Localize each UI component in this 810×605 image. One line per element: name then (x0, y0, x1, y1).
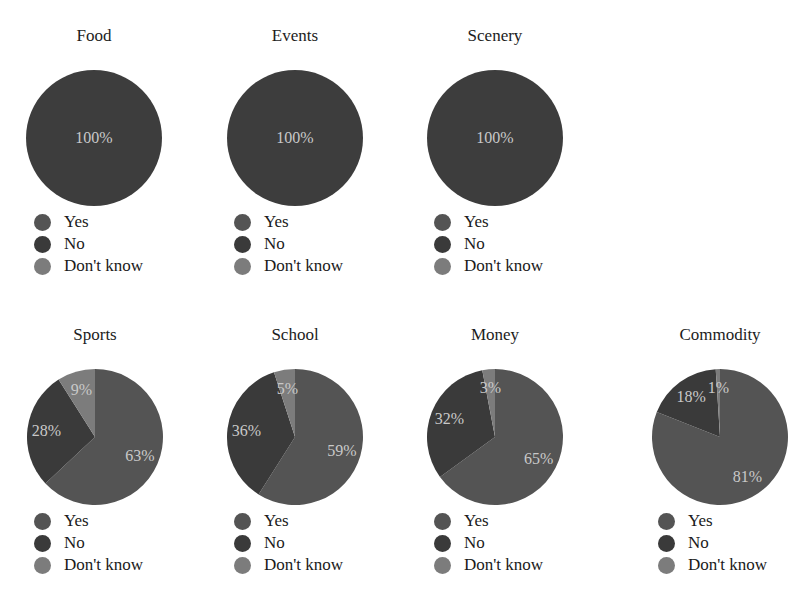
legend-label: Don't know (264, 256, 343, 276)
legend-label: Yes (264, 511, 289, 531)
legend-label: No (688, 533, 709, 553)
pie-chart: 65%32%3% (400, 299, 600, 529)
legend-swatch-icon (234, 236, 251, 253)
legend-label: Yes (64, 511, 89, 531)
slice-value-label: 65% (524, 450, 553, 467)
legend-item-dont-know: Don't know (658, 554, 767, 576)
legend-label: Don't know (464, 555, 543, 575)
legend-swatch-icon (434, 214, 451, 231)
legend-item-yes: Yes (234, 211, 343, 233)
legend-label: No (464, 234, 485, 254)
legend-swatch-icon (658, 513, 675, 530)
slice-value-label: 59% (327, 442, 356, 459)
legend-label: No (64, 234, 85, 254)
chart-legend: YesNoDon't know (234, 211, 343, 277)
slice-value-label: 100% (75, 129, 112, 146)
legend-item-dont-know: Don't know (434, 554, 543, 576)
legend-swatch-icon (234, 557, 251, 574)
legend-item-yes: Yes (34, 510, 143, 532)
legend-item-dont-know: Don't know (234, 554, 343, 576)
legend-label: Yes (688, 511, 713, 531)
legend-label: Yes (464, 511, 489, 531)
legend-swatch-icon (34, 258, 51, 275)
legend-item-dont-know: Don't know (434, 255, 543, 277)
legend-label: No (464, 533, 485, 553)
legend-item-no: No (34, 532, 143, 554)
legend-item-dont-know: Don't know (234, 255, 343, 277)
slice-value-label: 1% (708, 379, 729, 396)
legend-swatch-icon (34, 535, 51, 552)
legend-label: No (264, 533, 285, 553)
slice-value-label: 81% (733, 468, 762, 485)
slice-value-label: 9% (71, 381, 92, 398)
pie-panel-school: School59%36%5%YesNoDon't know (200, 299, 400, 589)
legend-item-no: No (234, 532, 343, 554)
legend-swatch-icon (34, 214, 51, 231)
legend-item-yes: Yes (658, 510, 767, 532)
slice-value-label: 18% (677, 388, 706, 405)
legend-swatch-icon (234, 258, 251, 275)
pie-panel-money: Money65%32%3%YesNoDon't know (400, 299, 600, 589)
legend-label: Yes (464, 212, 489, 232)
slice-value-label: 36% (232, 422, 261, 439)
legend-label: Don't know (64, 555, 143, 575)
legend-item-dont-know: Don't know (34, 554, 143, 576)
legend-label: Don't know (264, 555, 343, 575)
legend-swatch-icon (34, 557, 51, 574)
slice-value-label: 32% (435, 410, 464, 427)
chart-legend: YesNoDon't know (234, 510, 343, 576)
chart-legend: YesNoDon't know (434, 211, 543, 277)
legend-item-yes: Yes (434, 211, 543, 233)
pie-chart: 100% (200, 0, 400, 230)
legend-swatch-icon (34, 236, 51, 253)
legend-swatch-icon (234, 535, 251, 552)
legend-swatch-icon (34, 513, 51, 530)
pie-chart: 63%28%9% (0, 299, 200, 529)
legend-item-no: No (234, 233, 343, 255)
slice-value-label: 100% (476, 129, 513, 146)
slice-value-label: 28% (32, 422, 61, 439)
chart-legend: YesNoDon't know (34, 510, 143, 576)
legend-label: Yes (64, 212, 89, 232)
legend-swatch-icon (434, 236, 451, 253)
slice-value-label: 63% (125, 447, 154, 464)
legend-label: Yes (264, 212, 289, 232)
pie-panel-food: Food100%YesNoDon't know (0, 0, 198, 290)
pie-chart: 59%36%5% (200, 299, 400, 529)
pie-panel-commodity: Commodity81%18%1%YesNoDon't know (610, 299, 810, 589)
legend-label: Don't know (64, 256, 143, 276)
legend-label: No (64, 533, 85, 553)
legend-swatch-icon (658, 535, 675, 552)
pie-panel-scenery: Scenery100%YesNoDon't know (400, 0, 600, 290)
legend-swatch-icon (658, 557, 675, 574)
legend-item-yes: Yes (234, 510, 343, 532)
pie-chart: 100% (400, 0, 600, 230)
legend-swatch-icon (234, 513, 251, 530)
slice-value-label: 3% (480, 379, 501, 396)
legend-label: No (264, 234, 285, 254)
chart-legend: YesNoDon't know (34, 211, 143, 277)
legend-item-no: No (34, 233, 143, 255)
legend-item-yes: Yes (434, 510, 543, 532)
pie-chart: 81%18%1% (610, 299, 810, 529)
pie-chart: 100% (0, 0, 198, 230)
legend-item-dont-know: Don't know (34, 255, 143, 277)
legend-item-no: No (434, 233, 543, 255)
legend-item-no: No (434, 532, 543, 554)
chart-legend: YesNoDon't know (658, 510, 767, 576)
slice-value-label: 5% (277, 380, 298, 397)
chart-legend: YesNoDon't know (434, 510, 543, 576)
legend-label: Don't know (464, 256, 543, 276)
legend-swatch-icon (434, 513, 451, 530)
legend-swatch-icon (434, 535, 451, 552)
legend-label: Don't know (688, 555, 767, 575)
legend-swatch-icon (234, 214, 251, 231)
legend-swatch-icon (434, 557, 451, 574)
legend-item-yes: Yes (34, 211, 143, 233)
legend-swatch-icon (434, 258, 451, 275)
pie-panel-sports: Sports63%28%9%YesNoDon't know (0, 299, 200, 589)
pie-panel-events: Events100%YesNoDon't know (200, 0, 400, 290)
legend-item-no: No (658, 532, 767, 554)
slice-value-label: 100% (276, 129, 313, 146)
